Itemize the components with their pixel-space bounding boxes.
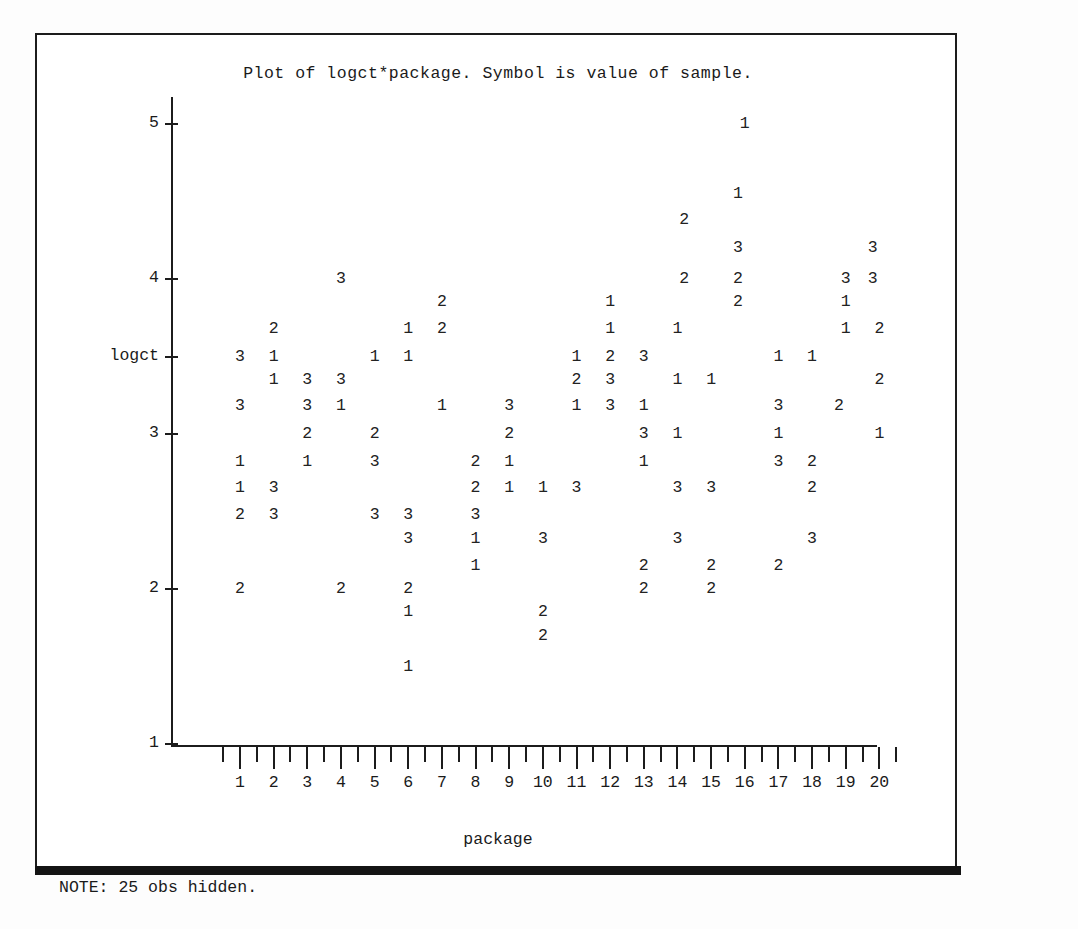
data-symbol: 1 — [672, 426, 682, 443]
y-axis-tick-label: 4 — [149, 270, 159, 287]
data-symbol: 2 — [773, 558, 783, 575]
data-symbol: 1 — [437, 398, 447, 415]
data-symbol: 1 — [672, 372, 682, 389]
x-axis-tick — [676, 747, 678, 769]
data-symbol: 1 — [841, 320, 851, 337]
data-symbol: 1 — [370, 348, 380, 365]
x-axis-minor-tick — [592, 747, 594, 762]
data-symbol: 2 — [706, 581, 716, 598]
data-symbol: 1 — [672, 320, 682, 337]
x-axis-tick-label: 15 — [701, 773, 721, 792]
x-axis-tick — [542, 747, 544, 769]
x-axis-minor-tick — [424, 747, 426, 762]
y-axis-name: logct — [109, 348, 159, 365]
x-axis-minor-tick — [862, 747, 864, 762]
data-symbol: 3 — [733, 240, 743, 257]
x-axis-minor-tick — [761, 747, 763, 762]
data-symbol: 1 — [504, 480, 514, 497]
x-axis-name: package — [37, 830, 959, 849]
data-symbol: 2 — [403, 581, 413, 598]
data-symbol: 3 — [471, 506, 481, 523]
x-axis-tick — [441, 747, 443, 769]
x-axis-tick — [878, 747, 880, 769]
data-symbol: 2 — [733, 294, 743, 311]
data-symbol: 2 — [336, 581, 346, 598]
x-axis-minor-tick — [559, 747, 561, 762]
y-axis-line — [171, 97, 173, 747]
data-symbol: 1 — [773, 348, 783, 365]
x-axis-tick-label: 13 — [634, 773, 654, 792]
plot-title: Plot of logct*package. Symbol is value o… — [37, 64, 959, 83]
data-symbol: 1 — [639, 398, 649, 415]
data-symbol: 2 — [235, 581, 245, 598]
plot-area: Plot of logct*package. Symbol is value o… — [37, 35, 959, 875]
x-axis-tick — [340, 747, 342, 769]
data-symbol: 2 — [471, 480, 481, 497]
x-axis-tick — [845, 747, 847, 769]
x-axis-minor-tick — [390, 747, 392, 762]
x-axis-minor-tick — [256, 747, 258, 762]
x-axis-minor-tick — [525, 747, 527, 762]
data-symbol: 3 — [672, 531, 682, 548]
data-symbol: 2 — [538, 604, 548, 621]
x-axis-tick — [609, 747, 611, 769]
data-symbol: 2 — [807, 480, 817, 497]
x-axis-tick-label: 14 — [668, 773, 688, 792]
x-axis-tick-label: 3 — [302, 773, 312, 792]
data-symbol: 1 — [605, 320, 615, 337]
data-symbol: 3 — [302, 398, 312, 415]
y-axis-tick-label: 3 — [149, 425, 159, 442]
x-axis-tick-label: 18 — [802, 773, 822, 792]
x-axis-tick-label: 20 — [869, 773, 889, 792]
x-axis-tick-label: 19 — [836, 773, 856, 792]
x-axis-tick — [374, 747, 376, 769]
x-axis-tick-label: 9 — [504, 773, 514, 792]
x-axis-tick — [811, 747, 813, 769]
data-symbol: 3 — [538, 531, 548, 548]
x-axis-tick-label: 11 — [567, 773, 587, 792]
x-axis-minor-tick — [289, 747, 291, 762]
data-symbol: 1 — [538, 480, 548, 497]
x-axis-minor-tick — [727, 747, 729, 762]
data-symbol: 1 — [639, 454, 649, 471]
data-symbol: 1 — [733, 186, 743, 203]
hidden-obs-note: NOTE: 25 obs hidden. — [59, 878, 257, 897]
data-symbol: 3 — [403, 506, 413, 523]
x-axis-tick — [273, 747, 275, 769]
x-axis-tick-label: 16 — [735, 773, 755, 792]
y-axis-tick-label: 1 — [149, 735, 159, 752]
data-symbol: 2 — [733, 271, 743, 288]
data-symbol: 1 — [773, 426, 783, 443]
x-axis-tick-label: 10 — [533, 773, 553, 792]
data-symbol: 2 — [235, 506, 245, 523]
data-symbol: 3 — [639, 426, 649, 443]
y-axis-tick-label: 2 — [149, 580, 159, 597]
x-axis-tick — [239, 747, 241, 769]
data-symbol: 3 — [868, 271, 878, 288]
data-symbol: 1 — [403, 604, 413, 621]
data-symbol: 2 — [639, 558, 649, 575]
x-axis-tick-label: 4 — [336, 773, 346, 792]
data-symbol: 2 — [538, 627, 548, 644]
data-symbol: 1 — [235, 480, 245, 497]
x-axis-minor-tick — [693, 747, 695, 762]
data-symbol: 1 — [807, 348, 817, 365]
x-axis-tick-label: 8 — [471, 773, 481, 792]
y-axis-tick — [165, 743, 178, 745]
x-axis-minor-tick — [323, 747, 325, 762]
x-axis-tick — [710, 747, 712, 769]
data-symbol: 1 — [706, 372, 716, 389]
x-axis-minor-tick — [491, 747, 493, 762]
data-symbol: 1 — [336, 398, 346, 415]
data-symbol: 2 — [572, 372, 582, 389]
data-symbol: 3 — [235, 398, 245, 415]
x-axis-tick — [475, 747, 477, 769]
x-axis-tick — [643, 747, 645, 769]
data-symbol: 3 — [504, 398, 514, 415]
x-axis-tick — [576, 747, 578, 769]
data-symbol: 1 — [403, 348, 413, 365]
data-symbol: 2 — [302, 426, 312, 443]
data-symbol: 3 — [302, 372, 312, 389]
data-symbol: 1 — [302, 454, 312, 471]
data-symbol: 1 — [572, 348, 582, 365]
